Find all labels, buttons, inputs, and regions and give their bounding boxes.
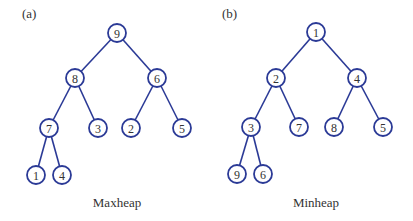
panel-caption: Maxheap (93, 195, 141, 210)
heap-node: 2 (122, 119, 140, 137)
node-value: 8 (331, 121, 337, 135)
heap-node: 6 (254, 165, 272, 183)
heap-node: 9 (228, 165, 246, 183)
node-value: 2 (128, 122, 134, 136)
node-value: 4 (354, 72, 360, 86)
node-value: 3 (95, 122, 101, 136)
node-value: 2 (273, 72, 279, 86)
node-value: 1 (33, 169, 39, 183)
heap-node: 9 (108, 24, 126, 42)
heap-node: 5 (173, 119, 191, 137)
heap-node: 3 (242, 118, 260, 136)
heap-node: 4 (348, 69, 366, 87)
node-value: 8 (72, 72, 78, 86)
panel-label: (a) (22, 6, 36, 21)
heap-node: 8 (325, 118, 343, 136)
minheap-panel: 124378596(b)Minheap (222, 6, 392, 210)
node-value: 7 (46, 122, 52, 136)
panel-caption: Minheap (293, 195, 339, 210)
heap-node: 6 (148, 69, 166, 87)
heap-node: 4 (53, 166, 71, 184)
node-value: 9 (114, 27, 120, 41)
heap-node: 2 (267, 69, 285, 87)
node-value: 5 (179, 122, 185, 136)
heap-node: 8 (66, 69, 84, 87)
node-value: 9 (234, 168, 240, 182)
heap-diagram: 986732514(a)Maxheap124378596(b)Minheap (0, 0, 413, 221)
heap-node: 7 (290, 118, 308, 136)
node-value: 6 (260, 168, 266, 182)
heap-node: 1 (27, 166, 45, 184)
heap-node: 3 (89, 119, 107, 137)
node-value: 3 (248, 121, 254, 135)
node-value: 6 (154, 72, 160, 86)
heap-node: 1 (307, 23, 325, 41)
heap-node: 7 (40, 119, 58, 137)
node-value: 7 (296, 121, 302, 135)
maxheap-panel: 986732514(a)Maxheap (22, 6, 191, 210)
panel-label: (b) (222, 6, 237, 21)
node-value: 5 (380, 121, 386, 135)
node-value: 4 (59, 169, 65, 183)
node-value: 1 (313, 26, 319, 40)
heap-node: 5 (374, 118, 392, 136)
